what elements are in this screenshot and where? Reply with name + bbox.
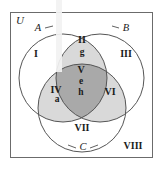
region-label-i: I [34,48,38,59]
set-label-c: C [79,141,87,152]
set-label-b: B [123,22,130,33]
element-label-a: a [55,94,60,104]
region-label-ii: II [78,34,86,45]
region-label-iii: III [120,48,132,59]
region-label-v: V [77,64,85,75]
set-label-a: A [34,22,42,33]
element-label-h: h [78,87,84,97]
region-label-viii: VIII [124,140,143,151]
scan-streak-artifact [56,0,62,72]
region-label-vii: VII [74,122,89,133]
element-label-e: e [79,76,83,86]
venn-diagram-canvas: U A B C I II III IV V VI VII VIII g a e … [0,0,163,170]
region-label-vi: VI [104,86,115,97]
universe-label: U [16,14,25,26]
venn-diagram-figure: U A B C I II III IV V VI VII VIII g a e … [0,0,163,170]
element-label-g: g [80,47,85,57]
